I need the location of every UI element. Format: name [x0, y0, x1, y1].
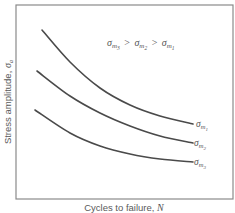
- curve-sigma-m2: [37, 71, 193, 143]
- stress-amplitude-chart: σm3 > σm2 > σm1 σm1 σm2 σm3 Cycles to fa…: [0, 0, 235, 213]
- annotation-inequality: σm3 > σm2 > σm1: [107, 37, 175, 52]
- series-label-sigma-m1: σm1: [196, 119, 208, 132]
- series-label-sigma-m3: σm3: [194, 157, 206, 170]
- series-labels: σm1 σm2 σm3: [194, 119, 208, 170]
- x-axis-label: Cycles to failure, N: [84, 202, 165, 213]
- series-label-sigma-m2: σm2: [194, 138, 206, 151]
- y-axis-label: Stress amplitude, σa: [2, 60, 14, 144]
